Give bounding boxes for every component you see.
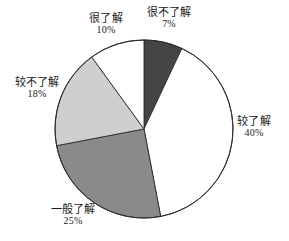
pie-slice-label-value: 7% (136, 18, 202, 29)
pie-slice-label-name: 很不了解 (136, 6, 202, 18)
pie-slice-label-value: 10% (78, 24, 134, 35)
pie-slice-label-hen-liaojie: 很了解 10% (78, 12, 134, 36)
pie-slice-label-name: 较了解 (226, 115, 282, 127)
pie-slice-label-name: 很了解 (78, 12, 134, 24)
pie-slice-label-value: 18% (4, 88, 70, 99)
pie-slice-label-jiao-liaojie: 较了解 40% (226, 115, 282, 139)
pie-slice-label-hen-bu-liaojie: 很不了解 7% (136, 6, 202, 30)
pie-slice-label-yiban-liaojie: 一般了解 25% (40, 203, 106, 227)
pie-slices-group (55, 40, 233, 218)
pie-slice-label-value: 25% (40, 215, 106, 226)
pie-slice-label-name: 较不了解 (4, 76, 70, 88)
pie-slice-label-value: 40% (226, 127, 282, 138)
pie-slice-label-jiao-bu-liaojie: 较不了解 18% (4, 76, 70, 100)
pie-slice-label-name: 一般了解 (40, 203, 106, 215)
pie-chart: 很不了解 7% 较了解 40% 一般了解 25% 较不了解 18% 很了解 10… (0, 0, 289, 241)
